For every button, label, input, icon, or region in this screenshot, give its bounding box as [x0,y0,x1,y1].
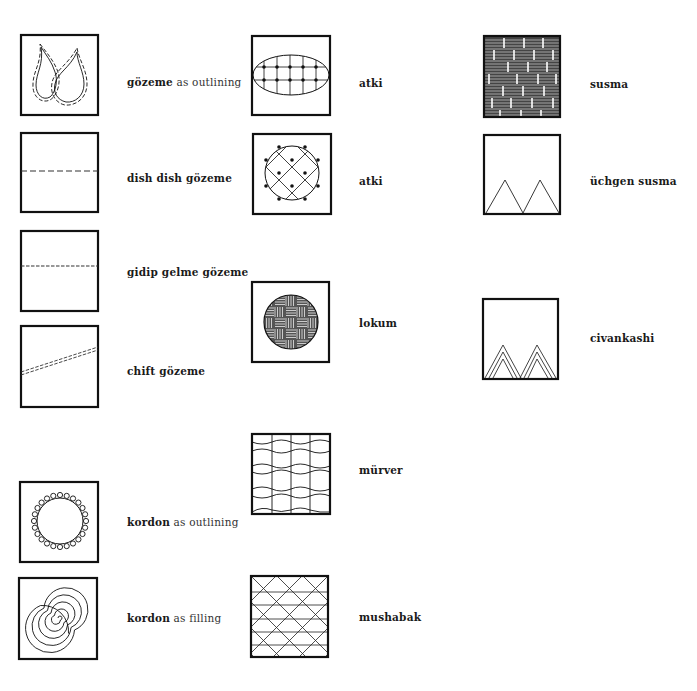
label-term: susma [590,78,628,90]
label-term: mushabak [359,611,421,623]
label-term: kordon [127,612,170,624]
murver-diagram [252,434,330,514]
label-term: dish dish gözeme [127,172,232,184]
susma-diagram [484,36,560,117]
gozeme-outlining-diagram [21,35,98,115]
label-chift-gozeme: chift gözeme [127,366,205,377]
label-suffix: as filling [174,612,222,624]
lokum-diagram [252,282,329,362]
chift-gozeme-diagram [21,326,98,407]
label-term: lokum [359,317,397,329]
label-term: chift gözeme [127,365,205,377]
atki-oval-diagram [250,36,335,115]
gidip-gelme-gozeme-diagram [21,231,98,311]
label-mushabak: mushabak [359,612,421,623]
label-murver: mürver [359,465,403,476]
label-kordon-outlining: kordon as outlining [127,517,239,528]
atki-circle-diagram [219,120,365,252]
label-suffix: as outlining [177,76,242,88]
stitch-drawings [0,0,697,691]
kordon-outlining-diagram [20,482,98,562]
label-civankashi: civankashi [590,333,655,344]
label-uchgen-susma: üchgen susma [590,176,677,187]
label-term: üchgen susma [590,175,677,187]
label-dish-dish-gozeme: dish dish gözeme [127,173,232,184]
kordon-filling-diagram [19,578,97,659]
label-susma: susma [590,79,628,90]
label-lokum: lokum [359,318,397,329]
label-term: atki [359,77,383,89]
label-term: mürver [359,464,403,476]
label-term: kordon [127,516,170,528]
label-suffix: as outlining [174,516,239,528]
label-kordon-filling: kordon as filling [127,613,221,624]
label-term: gidip gelme gözeme [127,266,249,278]
label-atki-1: atki [359,78,383,89]
label-atki-2: atki [359,176,383,187]
stitch-diagram-sheet: gözeme as outlining dish dish gözeme gid… [0,0,697,691]
label-gozeme-outlining: gözeme as outlining [127,77,242,88]
uchgen-susma-diagram [484,135,560,214]
label-term: civankashi [590,332,655,344]
label-gidip-gelme-gozeme: gidip gelme gözeme [127,267,249,278]
label-term: atki [359,175,383,187]
civankashi-diagram [483,299,558,379]
label-term: gözeme [127,76,173,88]
dish-dish-gozeme-diagram [21,133,98,212]
